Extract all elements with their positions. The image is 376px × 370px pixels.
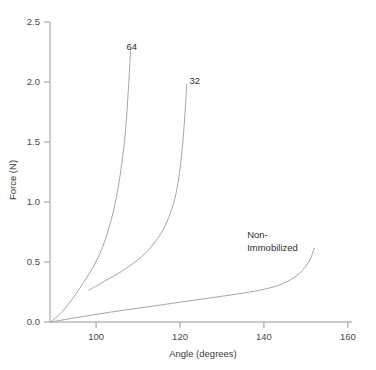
series-label-64: 64 bbox=[127, 41, 138, 52]
y-tick-label: 2.5 bbox=[27, 16, 40, 27]
series-curve-64 bbox=[51, 50, 131, 322]
chart-series-labels: 6432Non-Immobilized bbox=[127, 41, 298, 253]
x-tick-label: 120 bbox=[172, 331, 188, 342]
series-label-non-immobilized: Non- bbox=[247, 229, 268, 240]
series-label-32: 32 bbox=[189, 75, 200, 86]
force-angle-line-chart: 0.00.51.01.52.02.5 100120140160 6432Non-… bbox=[0, 0, 376, 370]
figure-caption-partial bbox=[28, 363, 358, 370]
x-axis-title: Angle (degrees) bbox=[169, 348, 237, 359]
y-tick-label: 1.5 bbox=[27, 136, 40, 147]
y-axis-ticks: 0.00.51.01.52.02.5 bbox=[27, 16, 50, 327]
series-label-non-immobilized-line2: Immobilized bbox=[247, 242, 298, 253]
y-axis-title: Force (N) bbox=[7, 160, 18, 200]
y-tick-label: 2.0 bbox=[27, 76, 40, 87]
series-curve-non-immobilized bbox=[51, 248, 314, 322]
y-tick-label: 0.0 bbox=[27, 316, 40, 327]
chart-axes bbox=[50, 22, 352, 322]
chart-figure: 0.00.51.01.52.02.5 100120140160 6432Non-… bbox=[0, 0, 376, 370]
x-tick-label: 140 bbox=[256, 331, 272, 342]
y-tick-label: 0.5 bbox=[27, 256, 40, 267]
x-tick-label: 160 bbox=[340, 331, 356, 342]
chart-series-curves bbox=[51, 50, 314, 322]
x-axis-ticks: 100120140160 bbox=[88, 322, 356, 342]
series-curve-32 bbox=[89, 84, 187, 290]
y-tick-label: 1.0 bbox=[27, 196, 40, 207]
x-tick-label: 100 bbox=[88, 331, 104, 342]
